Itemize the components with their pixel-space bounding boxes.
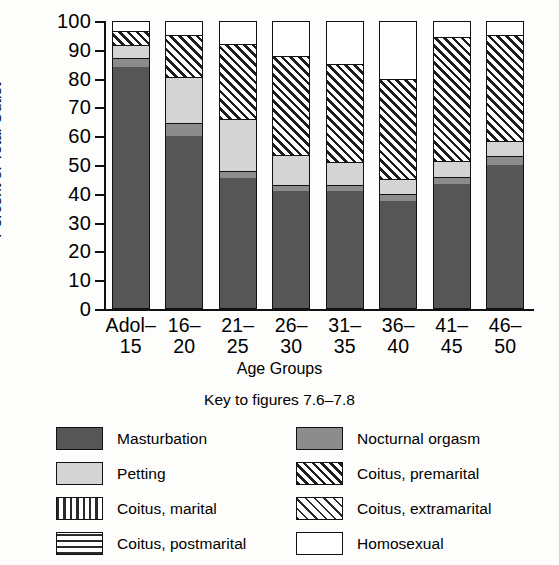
x-tick-label-7: 41–45 — [423, 315, 481, 357]
bar-segment-pett — [433, 161, 471, 177]
bar-3 — [219, 21, 257, 309]
bar-segment-pre — [165, 35, 203, 77]
bar-segment-pre — [486, 35, 524, 140]
bar-4 — [272, 21, 310, 309]
legend-swatch-icon — [296, 462, 343, 485]
x-tick-label-line1: 41– — [435, 314, 468, 336]
x-tick-label-8: 46–50 — [476, 315, 534, 357]
y-axis-title: Percent of Total Outlet — [0, 82, 5, 237]
y-tick-mark — [95, 107, 104, 109]
x-tick-label-6: 36–40 — [369, 315, 427, 357]
bar-segment-noct — [112, 58, 150, 67]
y-tick-label: 70 — [68, 97, 91, 117]
y-tick-mark — [95, 280, 104, 282]
figure-stacked-bar-chart: Percent of Total Outlet 0102030405060708… — [0, 0, 559, 565]
x-tick-label-line1: Adol– — [106, 314, 156, 336]
bar-segment-pett — [326, 162, 364, 185]
y-tick-mark — [95, 50, 104, 52]
x-tick-label-line2: 45 — [423, 336, 481, 357]
legend-swatch-icon — [56, 427, 103, 450]
bar-2 — [165, 21, 203, 309]
y-tick-label: 30 — [68, 213, 91, 233]
x-tick-label-line2: 30 — [262, 336, 320, 357]
y-tick-label: 100 — [57, 11, 91, 31]
y-tick-label: 80 — [68, 69, 91, 89]
bar-segment-pett — [272, 155, 310, 185]
legend-label: Coitus, postmarital — [117, 535, 246, 553]
bar-segment-mast — [112, 67, 150, 309]
bar-segment-homo — [326, 21, 364, 64]
bar-segment-homo — [219, 21, 257, 44]
x-tick-label-2: 16–20 — [155, 315, 213, 357]
x-tick-label-line1: 16– — [168, 314, 201, 336]
bar-5 — [326, 21, 364, 309]
x-tick-label-line2: 25 — [209, 336, 267, 357]
legend-item-sparse-diagonal-hatch: Coitus, extramarital — [296, 491, 526, 526]
legend-swatch-icon — [296, 497, 343, 520]
x-tick-label-line1: 46– — [489, 314, 522, 336]
legend-swatch-icon — [56, 497, 103, 520]
legend-label: Coitus, extramarital — [357, 500, 492, 518]
legend-label: Homosexual — [357, 535, 444, 553]
bar-segment-pre — [379, 79, 417, 180]
legend-item-white-empty: Homosexual — [296, 526, 526, 561]
bar-8 — [486, 21, 524, 309]
bar-segment-pett — [379, 179, 417, 193]
bar-segment-mast — [219, 178, 257, 309]
bar-segment-mast — [486, 165, 524, 309]
legend-swatch-icon — [296, 532, 343, 555]
bar-segment-pett — [165, 77, 203, 123]
bar-segment-pre — [433, 37, 471, 161]
legend-item-solid-medium-gray: Nocturnal orgasm — [296, 421, 526, 456]
bar-segment-noct — [326, 185, 364, 191]
y-tick-label: 10 — [68, 270, 91, 290]
x-tick-label-1: Adol–15 — [102, 315, 160, 357]
x-tick-label-line1: 26– — [275, 314, 308, 336]
legend-label: Coitus, marital — [117, 500, 217, 518]
bar-segment-homo — [433, 21, 471, 37]
bar-segment-mast — [379, 201, 417, 309]
bar-segment-mast — [165, 136, 203, 309]
x-tick-label-line2: 35 — [316, 336, 374, 357]
x-tick-label-5: 31–35 — [316, 315, 374, 357]
legend-item-solid-light-gray: Petting — [56, 456, 286, 491]
y-tick-mark — [95, 223, 104, 225]
plot-area: 0102030405060708090100 — [104, 21, 532, 309]
bar-segment-noct — [165, 123, 203, 136]
y-tick-mark — [95, 194, 104, 196]
y-tick-label: 0 — [80, 299, 91, 319]
bar-segment-mast — [326, 191, 364, 309]
x-tick-label-line2: 20 — [155, 336, 213, 357]
y-tick-mark — [95, 251, 104, 253]
bar-segment-mast — [272, 191, 310, 309]
bar-group — [104, 21, 532, 309]
bar-segment-homo — [379, 21, 417, 79]
x-tick-label-line2: 50 — [476, 336, 534, 357]
legend-swatch-icon — [296, 427, 343, 450]
bar-6 — [379, 21, 417, 309]
bar-segment-pre — [112, 31, 150, 45]
bar-segment-noct — [272, 185, 310, 191]
bar-segment-pett — [219, 119, 257, 171]
y-tick-label: 50 — [68, 155, 91, 175]
bar-segment-pre — [219, 44, 257, 119]
legend-swatch-icon — [56, 462, 103, 485]
legend: MasturbationNocturnal orgasmPettingCoitu… — [56, 421, 526, 561]
x-tick-label-3: 21–25 — [209, 315, 267, 357]
legend-item-solid-dark-gray: Masturbation — [56, 421, 286, 456]
y-tick-mark — [95, 21, 104, 23]
legend-label: Coitus, premarital — [357, 465, 479, 483]
legend-item-vertical-stripes: Coitus, marital — [56, 491, 286, 526]
bar-segment-pett — [112, 45, 150, 58]
legend-title: Key to figures 7.6–7.8 — [0, 391, 559, 409]
bar-segment-homo — [165, 21, 203, 35]
bar-segment-mast — [433, 184, 471, 309]
x-tick-label-line2: 15 — [102, 336, 160, 357]
y-tick-label: 60 — [68, 126, 91, 146]
y-tick-mark — [95, 79, 104, 81]
y-tick-label: 20 — [68, 241, 91, 261]
legend-item-dense-diagonal-hatch: Coitus, premarital — [296, 456, 526, 491]
bar-segment-noct — [219, 171, 257, 178]
bar-segment-noct — [486, 156, 524, 165]
x-tick-label-line1: 31– — [328, 314, 361, 336]
